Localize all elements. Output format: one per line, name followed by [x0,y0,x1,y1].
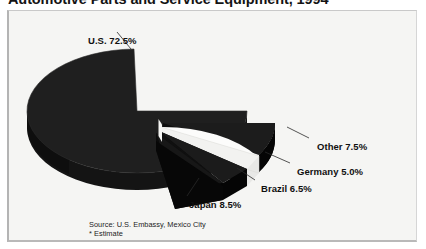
estimate-note: * Estimate [89,229,206,238]
leader-line-other [287,127,309,138]
slice-label-germany: Germany 5.0% [297,166,363,177]
slice-label-brazil: Brazil 6.5% [261,183,312,194]
slice-label-japan: Japan 8.5% [189,199,241,210]
chart-panel: U.S. 72.5% Other 7.5% Germany 5.0% Brazi… [7,10,417,242]
slice-label-other: Other 7.5% [317,141,367,152]
slice-label-us: U.S. 72.5% [88,35,137,46]
chart-title: Automotive Parts and Service Equipment, … [8,0,418,7]
chart-figure: Automotive Parts and Service Equipment, … [0,0,426,249]
chart-panel-background: U.S. 72.5% Other 7.5% Germany 5.0% Brazi… [9,11,416,240]
source-note: Source: U.S. Embassy, Mexico City * Esti… [89,220,206,238]
source-text: Source: U.S. Embassy, Mexico City [89,220,206,229]
